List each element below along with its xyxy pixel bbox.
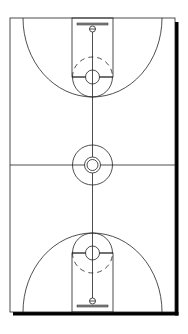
backboard-top bbox=[77, 23, 108, 25]
backboard-bottom bbox=[77, 305, 108, 307]
center-circle bbox=[73, 145, 113, 185]
court-lines bbox=[10, 18, 175, 312]
basketball-court bbox=[0, 0, 188, 334]
